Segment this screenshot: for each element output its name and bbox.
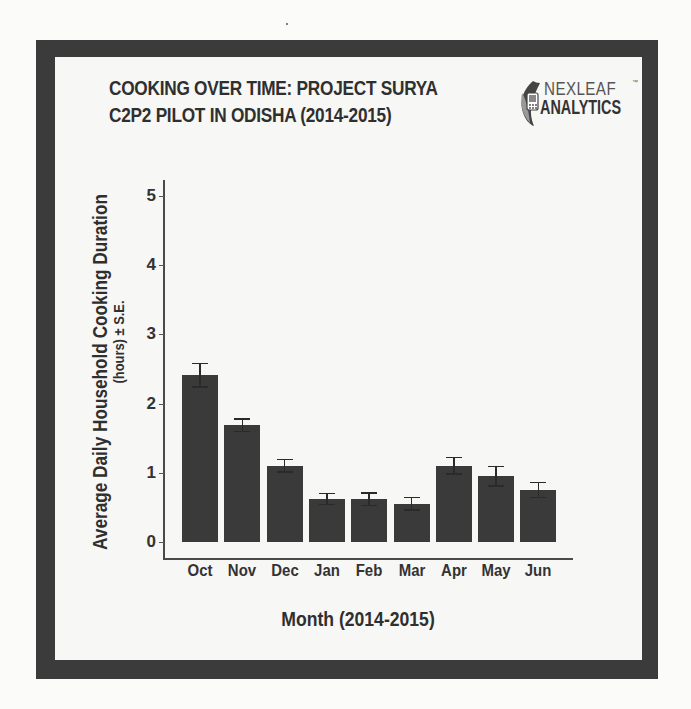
error-bar-cap — [319, 504, 335, 506]
x-tick-label: Nov — [223, 561, 262, 581]
error-bar — [242, 419, 244, 431]
error-bar-cap — [530, 482, 546, 484]
y-tick-label: 4 — [136, 256, 156, 274]
x-tick-label: Jun — [519, 561, 558, 581]
error-bar-cap — [404, 509, 420, 511]
bar-nov — [224, 425, 260, 542]
bar-oct — [182, 375, 218, 542]
bar-dec — [267, 466, 303, 542]
chart-frame: COOKING OVER TIME: PROJECT SURYA C2P2 PI… — [36, 40, 658, 679]
y-tick-mark — [159, 265, 164, 266]
x-tick-label: Apr — [434, 561, 473, 581]
error-bar — [284, 460, 286, 472]
y-tick-label: 5 — [136, 187, 156, 205]
bar-jan — [309, 499, 345, 542]
x-tick-label: Mar — [392, 561, 431, 581]
error-bar-cap — [488, 466, 504, 468]
y-axis-title: Average Daily Household Cooking Duration — [89, 194, 112, 550]
error-bar-cap — [530, 497, 546, 499]
y-tick-mark — [159, 542, 164, 543]
y-tick-label: 2 — [136, 395, 156, 413]
bar-apr — [436, 466, 472, 542]
error-bar — [538, 482, 540, 497]
error-bar-cap — [488, 485, 504, 487]
error-bar-cap — [277, 471, 293, 473]
x-tick-label: Jan — [308, 561, 347, 581]
y-tick-mark — [159, 473, 164, 474]
error-bar-cap — [192, 386, 208, 388]
error-bar-cap — [404, 497, 420, 499]
error-bar-cap — [446, 473, 462, 475]
error-bar-cap — [319, 493, 335, 495]
x-tick-label: Oct — [181, 561, 220, 581]
error-bar — [453, 458, 455, 475]
error-bar — [411, 498, 413, 510]
error-bar-cap — [277, 459, 293, 461]
y-tick-mark — [159, 404, 164, 405]
y-tick-mark — [159, 196, 164, 197]
y-axis-subtitle: (hours) ± S.E. — [110, 300, 127, 383]
x-tick-label: May — [477, 561, 516, 581]
error-bar-cap — [234, 431, 250, 433]
bar-chart: Average Daily Household Cooking Duration… — [0, 0, 691, 709]
error-bar-cap — [192, 363, 208, 365]
error-bar-cap — [361, 505, 377, 507]
y-axis-line — [163, 180, 165, 559]
error-bar-cap — [234, 418, 250, 420]
y-tick-mark — [159, 334, 164, 335]
error-bar — [199, 363, 201, 387]
x-tick-label: Feb — [350, 561, 389, 581]
x-axis-line — [163, 558, 573, 560]
y-tick-label: 0 — [136, 533, 156, 551]
y-tick-label: 1 — [136, 464, 156, 482]
error-bar — [495, 467, 497, 486]
x-axis-title: Month (2014-2015) — [281, 608, 435, 631]
y-tick-label: 3 — [136, 325, 156, 343]
error-bar-cap — [446, 457, 462, 459]
error-bar-cap — [361, 492, 377, 494]
error-bar — [368, 493, 370, 505]
x-tick-label: Dec — [265, 561, 304, 581]
